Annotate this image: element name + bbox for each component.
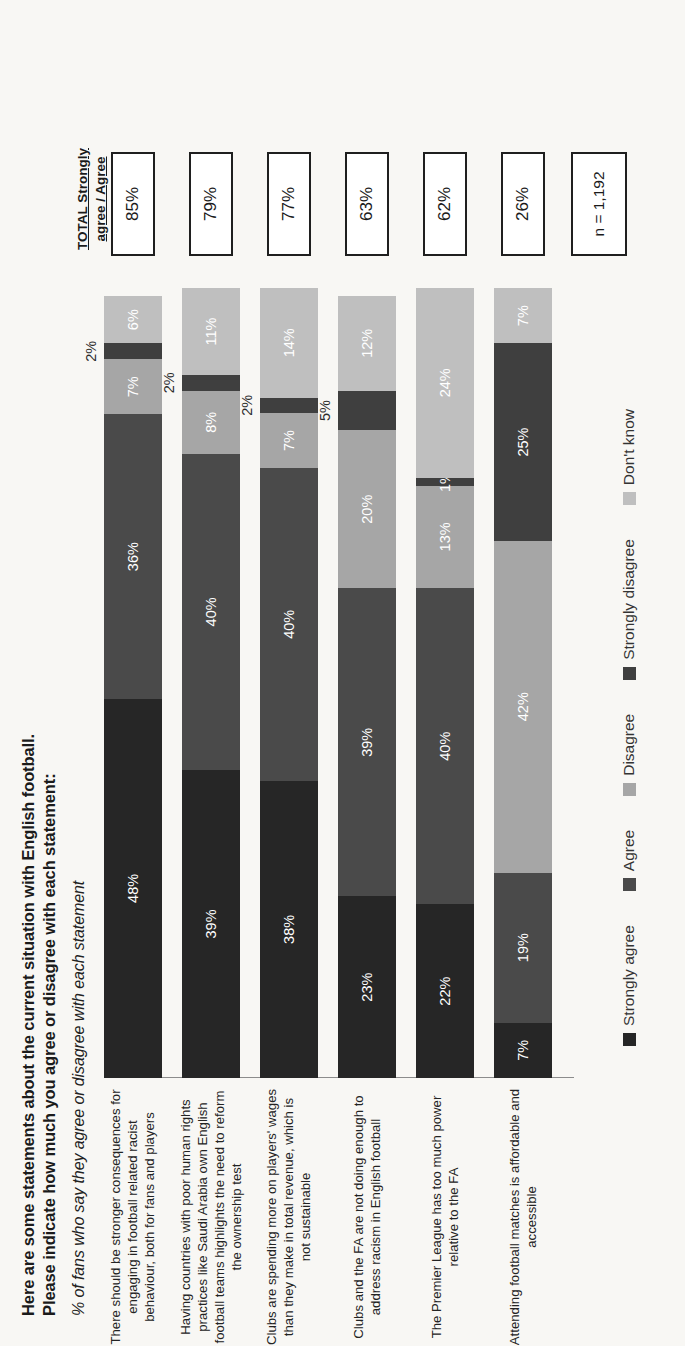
bar-segment-agree[interactable]: 39%	[338, 588, 396, 896]
bar-row: Clubs are spending more on players' wage…	[260, 288, 318, 1078]
bar-segment-strongly-agree[interactable]: 48%	[104, 699, 162, 1078]
segment-value-label: 12%	[359, 329, 375, 358]
bar-segment-dont-know[interactable]: 24%	[416, 288, 474, 478]
bar-segment-dont-know[interactable]: 12%	[338, 296, 396, 391]
bar-segment-agree[interactable]: 19%	[494, 873, 552, 1023]
legend-item-strongly-disagree[interactable]: Strongly disagree	[620, 539, 638, 680]
segment-value-label: 7%	[515, 305, 531, 326]
bar-segment-disagree[interactable]: 42%	[494, 541, 552, 873]
chart-legend: Strongly agreeAgreeDisagreeStrongly disa…	[620, 409, 638, 1046]
segment-value-label: 39%	[359, 728, 375, 757]
bar-segment-strongly-agree[interactable]: 38%	[260, 781, 318, 1078]
bar-segment-strongly-disagree[interactable]: 25%	[494, 343, 552, 541]
segment-value-label: 13%	[437, 522, 453, 551]
segment-value-label: 38%	[281, 915, 297, 944]
segment-value-label: 7%	[515, 1040, 531, 1061]
segment-value-label: 20%	[359, 495, 375, 524]
bar-segment-strongly-disagree[interactable]: 5%	[338, 391, 396, 431]
total-agree-box: 62%	[423, 152, 467, 256]
segment-value-label: 8%	[203, 412, 219, 433]
category-label: Having countries with poor human rights …	[177, 1088, 246, 1346]
legend-item-disagree[interactable]: Disagree	[620, 714, 638, 796]
segment-value-label: 42%	[515, 692, 531, 721]
segment-value-label: 40%	[281, 610, 297, 639]
bar-segment-dont-know[interactable]: 11%	[182, 288, 240, 375]
bar-segment-agree[interactable]: 36%	[104, 414, 162, 698]
segment-value-label: 5%	[317, 400, 333, 421]
bar-segment-disagree[interactable]: 8%	[182, 391, 240, 454]
category-label: Clubs and the FA are not doing enough to…	[350, 1088, 384, 1346]
bar-segment-agree[interactable]: 40%	[416, 588, 474, 904]
bar-segment-disagree[interactable]: 20%	[338, 430, 396, 588]
legend-item-dont-know[interactable]: Don't know	[620, 409, 638, 505]
segment-value-label: 14%	[281, 328, 297, 357]
stacked-bar[interactable]: 22%40%13%1%24%	[416, 288, 474, 1078]
category-label: Attending football matches is affordable…	[506, 1088, 540, 1346]
bar-segment-disagree[interactable]: 13%	[416, 486, 474, 589]
segment-value-label: 25%	[515, 428, 531, 457]
legend-label: Strongly agree	[620, 925, 638, 1026]
segment-value-label: 48%	[125, 874, 141, 903]
bar-segment-strongly-disagree[interactable]: 1%	[416, 478, 474, 486]
bar-segment-strongly-agree[interactable]: 39%	[182, 770, 240, 1078]
legend-label: Agree	[620, 830, 638, 871]
segment-value-label: 19%	[515, 933, 531, 962]
segment-value-label: 24%	[437, 368, 453, 397]
legend-label: Don't know	[620, 409, 638, 485]
legend-swatch-icon	[623, 1033, 636, 1046]
bar-row: Having countries with poor human rights …	[182, 288, 240, 1078]
segment-value-label: 23%	[359, 973, 375, 1002]
legend-swatch-icon	[623, 783, 636, 796]
rotated-chart-canvas: Here are some statements about the curre…	[0, 0, 685, 1346]
category-label: There should be stronger consequences fo…	[107, 1088, 158, 1346]
legend-item-strongly-agree[interactable]: Strongly agree	[620, 925, 638, 1046]
bar-segment-dont-know[interactable]: 14%	[260, 288, 318, 398]
segment-value-label: 2%	[83, 341, 99, 362]
bar-segment-strongly-disagree[interactable]: 2%	[182, 375, 240, 391]
stacked-bar[interactable]: 48%36%7%2%6%	[104, 288, 162, 1078]
total-agree-box: 85%	[111, 152, 155, 256]
chart-title-block: Here are some statements about the curre…	[18, 316, 88, 1316]
bar-row: Clubs and the FA are not doing enough to…	[338, 288, 396, 1078]
segment-value-label: 7%	[281, 430, 297, 451]
bar-segment-agree[interactable]: 40%	[260, 468, 318, 781]
total-agree-box: 79%	[189, 152, 233, 256]
stacked-bar[interactable]: 38%40%7%2%14%	[260, 288, 318, 1078]
bar-segment-strongly-disagree[interactable]: 2%	[260, 398, 318, 414]
bar-segment-agree[interactable]: 40%	[182, 454, 240, 770]
segment-value-label: 36%	[125, 542, 141, 571]
segment-value-label: 11%	[203, 318, 219, 346]
legend-swatch-icon	[623, 492, 636, 505]
total-column-header-line-1: TOTAL Strongly	[74, 134, 92, 264]
category-label: Clubs are spending more on players' wage…	[263, 1088, 314, 1346]
bar-segment-dont-know[interactable]: 7%	[494, 288, 552, 343]
total-column-header: TOTAL Strongly agree / Agree	[74, 134, 109, 264]
bar-row: Attending football matches is affordable…	[494, 288, 552, 1078]
bar-segment-strongly-agree[interactable]: 22%	[416, 904, 474, 1078]
stacked-bar[interactable]: 23%39%20%5%12%	[338, 288, 396, 1078]
segment-value-label: 39%	[203, 909, 219, 938]
chart-subtitle: % of fans who say they agree or disagree…	[70, 316, 88, 1316]
legend-label: Strongly disagree	[620, 539, 638, 660]
bar-segment-disagree[interactable]: 7%	[104, 359, 162, 414]
total-agree-box: 77%	[267, 152, 311, 256]
segment-value-label: 7%	[125, 376, 141, 397]
plot-area: There should be stronger consequences fo…	[104, 288, 574, 1078]
bar-row: There should be stronger consequences fo…	[104, 288, 162, 1078]
chart-title-line-2: Please indicate how much you agree or di…	[39, 316, 60, 1316]
bar-segment-strongly-agree[interactable]: 23%	[338, 896, 396, 1078]
bar-segment-strongly-disagree[interactable]: 2%	[104, 343, 162, 359]
legend-swatch-icon	[623, 667, 636, 680]
bar-segment-disagree[interactable]: 7%	[260, 413, 318, 468]
segment-value-label: 2%	[239, 395, 255, 416]
chart-root: Here are some statements about the curre…	[0, 0, 685, 1346]
total-agree-box: 26%	[501, 152, 545, 256]
segment-value-label: 6%	[125, 309, 141, 330]
total-column-header-line-2: agree / Agree	[92, 134, 110, 264]
stacked-bar[interactable]: 39%40%8%2%11%	[182, 288, 240, 1078]
legend-item-agree[interactable]: Agree	[620, 830, 638, 891]
stacked-bar[interactable]: 7%19%42%25%7%	[494, 288, 552, 1078]
bar-row: The Premier League has too much power re…	[416, 288, 474, 1078]
bar-segment-strongly-agree[interactable]: 7%	[494, 1023, 552, 1078]
bar-segment-dont-know[interactable]: 6%	[104, 296, 162, 343]
